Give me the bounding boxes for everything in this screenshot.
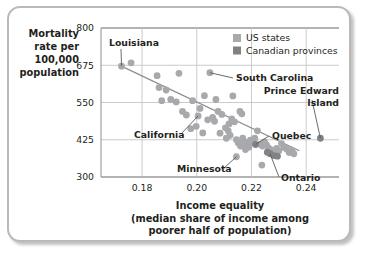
data-point [264, 149, 271, 156]
x-tick-label: 0.18 [132, 182, 153, 193]
x-tick-label: 0.22 [241, 182, 262, 193]
annotation-label: Louisiana [109, 37, 159, 48]
data-point [163, 87, 170, 94]
annotation-labels: LouisianaSouth CarolinaPrince EdwardIsla… [109, 37, 339, 183]
annotation-label: Island [307, 97, 339, 108]
leader-line [210, 73, 233, 78]
data-point [229, 93, 236, 100]
legend-swatch [233, 47, 241, 55]
data-point [290, 150, 297, 157]
legend-label: Canadian provinces [246, 45, 338, 56]
y-tick-label: 550 [76, 97, 94, 108]
chart-svg: Mortalityrate per100,000population 30042… [9, 8, 353, 244]
y-tick-label: 425 [76, 134, 94, 145]
y-tick-label: 300 [76, 171, 94, 182]
annotation-label: California [134, 129, 185, 140]
y-axis-label-line: population [20, 67, 79, 78]
annotation-label: South Carolina [236, 72, 313, 83]
y-axis-label-line: 100,000 [34, 54, 79, 65]
legend-swatch [233, 34, 241, 42]
data-point [258, 162, 265, 169]
data-point [226, 121, 233, 128]
data-point [211, 118, 218, 125]
annotation-label: Minnesota [177, 163, 232, 174]
x-axis-title-line: poorer half of population) [148, 225, 291, 236]
data-point [254, 127, 261, 134]
y-tick-label: 675 [76, 60, 94, 71]
data-point [128, 59, 135, 66]
annotation-label: Quebec [272, 130, 311, 141]
x-axis-tick-labels: 0.180.200.220.24 [132, 182, 317, 193]
x-axis-title-line: Income equality [176, 200, 265, 211]
data-point [197, 105, 204, 112]
data-point [223, 135, 230, 142]
y-axis-label: Mortalityrate per100,000population [20, 28, 80, 78]
leader-line [121, 49, 122, 66]
data-point [212, 96, 219, 103]
x-axis-title-line: (median share of income among [131, 213, 309, 224]
data-point [193, 123, 200, 130]
y-axis-label-line: Mortality [29, 28, 80, 39]
legend: US statesCanadian provinces [233, 32, 338, 56]
legend-label: US states [246, 32, 290, 43]
data-point [274, 153, 281, 160]
data-point [156, 84, 163, 91]
y-tick-label: 800 [76, 22, 94, 33]
data-point [154, 72, 161, 79]
data-point [242, 146, 249, 153]
data-point [173, 99, 180, 106]
data-point [199, 129, 206, 136]
data-point [251, 135, 258, 142]
data-point [219, 111, 226, 118]
x-tick-label: 0.20 [186, 182, 207, 193]
data-point [217, 130, 224, 137]
data-point [176, 70, 183, 77]
annotation-label: Ontario [281, 172, 320, 183]
x-tick-label: 0.24 [296, 182, 317, 193]
data-point [204, 116, 211, 123]
x-axis-title: Income equality(median share of income a… [131, 200, 309, 236]
data-point [158, 97, 165, 104]
annotation-label: Prince Edward [264, 85, 339, 96]
y-axis-label-line: rate per [34, 41, 79, 52]
data-point [238, 110, 245, 117]
scatter-chart: Mortalityrate per100,000population 30042… [9, 8, 353, 244]
figure-card: Mortalityrate per100,000population 30042… [7, 6, 351, 242]
data-point [201, 92, 208, 99]
data-point [189, 97, 196, 104]
data-point [183, 112, 190, 119]
